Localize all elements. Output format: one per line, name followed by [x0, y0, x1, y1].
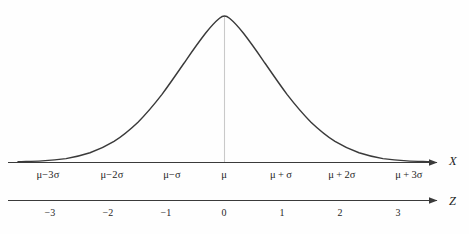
normal-distribution-figure: μ−3σ μ−2σ μ−σ μ μ + σ μ + 2σ μ + 3σ −3 −…: [0, 0, 469, 234]
distribution-plot: [0, 0, 469, 234]
